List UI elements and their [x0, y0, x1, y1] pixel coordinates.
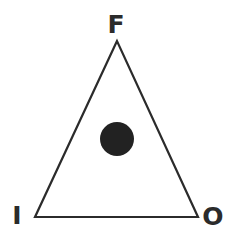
center-dot	[100, 122, 134, 156]
vertex-label-top: F	[107, 10, 124, 39]
vertex-label-bottom-right: O	[202, 202, 223, 231]
vertex-label-bottom-left: I	[12, 201, 21, 230]
triangle-diagram: F I O	[0, 0, 239, 247]
